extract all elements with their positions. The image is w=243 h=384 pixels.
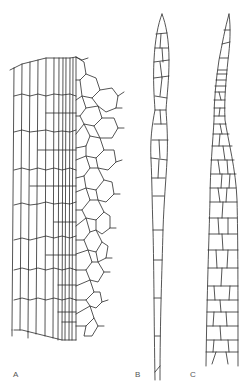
panel-label-c: C [190,371,196,379]
cell-drawing [0,0,243,384]
panel-label-b: B [135,371,140,379]
panel-a-drawing [10,57,124,340]
panel-b-drawing [151,14,169,380]
panel-c-drawing [206,14,238,366]
botanical-figure: A B C [0,0,243,384]
panel-label-a: A [13,371,18,379]
